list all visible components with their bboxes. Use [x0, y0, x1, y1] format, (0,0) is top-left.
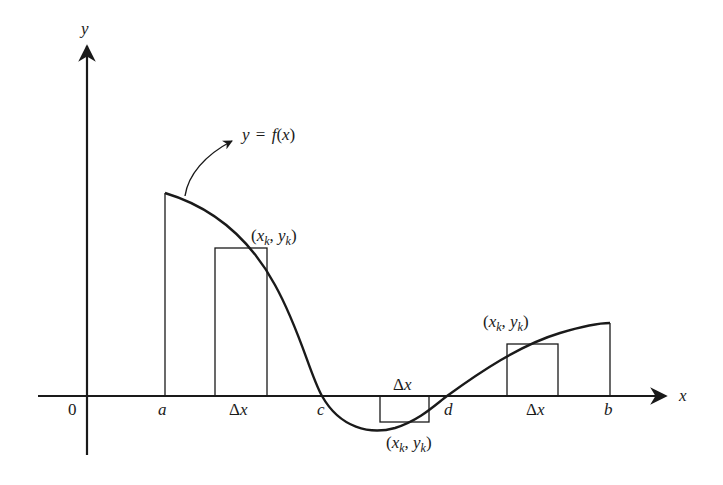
- tick-label-delta-x-1: Δx: [229, 400, 248, 419]
- negative-rectangle-middle: [380, 396, 429, 422]
- tick-label-c: c: [317, 400, 325, 419]
- sample-point-label-left: (xk, yk): [251, 226, 297, 248]
- function-curve: [165, 193, 610, 430]
- sample-point-label-middle: (xk, yk): [386, 433, 432, 455]
- positive-rectangle-left: [215, 248, 267, 396]
- tick-label-delta-x-3: Δx: [526, 400, 545, 419]
- y-axis-label: y: [79, 19, 89, 38]
- tick-label-a: a: [158, 400, 167, 419]
- riemann-sum-diagram: y x 0 y = f(x) a Δx c Δx d Δx b (xk, yk)…: [0, 0, 723, 485]
- tick-label-delta-x-2: Δx: [393, 375, 412, 394]
- sample-point-label-right: (xk, yk): [483, 312, 529, 334]
- x-axis-label: x: [678, 386, 687, 405]
- tick-label-b: b: [604, 400, 613, 419]
- curve-label-pointer-arrow: [185, 141, 232, 196]
- curve-label: y = f(x): [240, 125, 295, 144]
- origin-label: 0: [68, 400, 77, 419]
- tick-label-d: d: [444, 400, 453, 419]
